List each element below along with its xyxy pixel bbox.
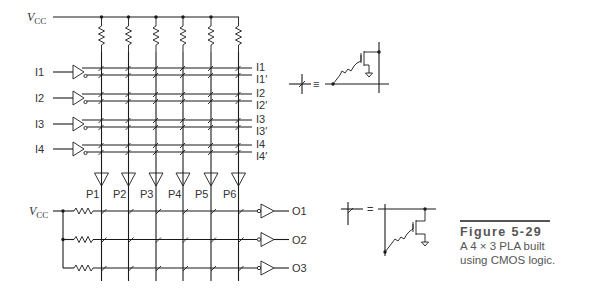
svg-text:I2: I2 xyxy=(256,87,265,99)
input-row-i2: I2 I2 I2′ xyxy=(35,87,267,111)
nmos-crosspoint-detail xyxy=(325,42,389,93)
output-row-o3: O3 xyxy=(63,261,307,275)
svg-text:O1: O1 xyxy=(292,205,307,217)
resistor-p2 xyxy=(126,17,132,52)
output-row-o2: O2 xyxy=(63,233,307,247)
svg-text:I4: I4 xyxy=(35,143,44,155)
product-buffers xyxy=(95,173,246,186)
svg-text:I4′: I4′ xyxy=(256,150,267,162)
svg-text:P1: P1 xyxy=(86,188,99,200)
svg-text:I1′: I1′ xyxy=(256,73,267,85)
resistor-p4 xyxy=(180,17,186,52)
svg-text:I2′: I2′ xyxy=(256,99,267,111)
svg-text:I3′: I3′ xyxy=(256,125,267,137)
product-labels: P1 P2 P3 P4 P5 P6 xyxy=(86,188,236,200)
resistor-p5 xyxy=(208,17,214,52)
svg-text:P2: P2 xyxy=(113,188,126,200)
svg-text:O2: O2 xyxy=(292,234,307,246)
input-row-i1: I1 I1 I1′ xyxy=(35,61,267,85)
input-row-i4: I4 I4 I4′ xyxy=(35,138,267,162)
resistor-p3 xyxy=(153,17,159,52)
and-crosspoint-legend: ≡ xyxy=(289,42,389,94)
svg-text:P4: P4 xyxy=(168,188,181,200)
crosspoint-symbol-small-or xyxy=(341,202,363,225)
or-crosspoint-legend: = xyxy=(341,202,436,256)
svg-text:I1: I1 xyxy=(256,61,265,73)
svg-text:I3: I3 xyxy=(256,113,265,125)
svg-text:P6: P6 xyxy=(223,188,236,200)
vcc-bottom-bus xyxy=(53,209,65,268)
nmos-crosspoint-detail-or xyxy=(378,204,436,256)
caption-line-1: A 4 × 3 PLA built xyxy=(460,240,546,252)
resistor-p1 xyxy=(99,17,105,52)
equivalence-sign: ≡ xyxy=(313,78,319,90)
svg-text:I4: I4 xyxy=(256,138,265,150)
svg-text:O3: O3 xyxy=(292,262,307,274)
figure-caption: Figure 5-29 A 4 × 3 PLA built using CMOS… xyxy=(460,221,555,266)
resistor-p6 xyxy=(236,17,242,52)
svg-text:VCC: VCC xyxy=(27,10,46,26)
and-plane-crosspoints xyxy=(99,66,241,155)
svg-text:P5: P5 xyxy=(195,188,208,200)
output-row-o1: O1 xyxy=(63,204,307,218)
vcc-top-label: VCC xyxy=(27,10,46,26)
svg-text:I1: I1 xyxy=(35,66,44,78)
equals-sign: = xyxy=(367,203,373,215)
svg-text:P3: P3 xyxy=(140,188,153,200)
crosspoint-symbol-small xyxy=(289,74,311,94)
figure-number: Figure 5-29 xyxy=(460,225,542,239)
svg-text:VCC: VCC xyxy=(29,204,48,220)
caption-line-2: using CMOS logic. xyxy=(460,254,555,266)
vcc-bottom-label: VCC xyxy=(29,204,48,220)
pullup-resistors xyxy=(99,17,242,52)
svg-text:I3: I3 xyxy=(35,118,44,130)
pla-diagram: VCC xyxy=(0,0,590,292)
input-row-i3: I3 I3 I3′ xyxy=(35,113,267,137)
product-columns xyxy=(102,52,239,281)
svg-text:I2: I2 xyxy=(35,92,44,104)
